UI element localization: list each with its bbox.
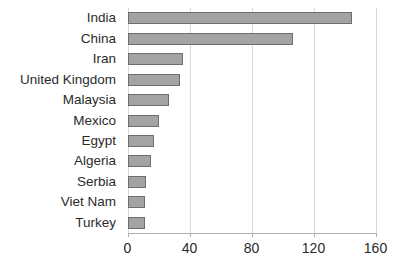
value-tick-label: 80 [244,240,260,256]
category-label: Viet Nam [0,195,116,209]
bar [128,94,170,106]
bar [128,176,147,188]
gridline [314,8,315,233]
tick-mark [376,233,377,237]
category-label: Egypt [0,134,116,148]
category-label: India [0,11,116,25]
bar [128,155,151,167]
bar [128,74,181,86]
tick-mark [190,233,191,237]
tick-mark [128,233,129,237]
bar [128,115,159,127]
value-tick-label: 120 [302,240,325,256]
value-axis-tick-labels: 04080120160 [0,240,401,262]
category-label: Malaysia [0,93,116,107]
category-label: China [0,32,116,46]
bar [128,217,145,229]
gridline [376,8,377,233]
tick-mark [314,233,315,237]
category-label: Turkey [0,216,116,230]
bar-chart: IndiaChinaIranUnited KingdomMalaysiaMexi… [0,0,401,277]
bar [128,196,145,208]
category-label: Mexico [0,114,116,128]
bar [128,135,154,147]
plot-area [128,8,376,233]
tick-mark [252,233,253,237]
value-tick-label: 160 [364,240,387,256]
value-tick-label: 40 [182,240,198,256]
value-tick-label: 0 [124,240,132,256]
category-label: United Kingdom [0,73,116,87]
category-label: Algeria [0,154,116,168]
bar [128,12,353,24]
category-axis-labels: IndiaChinaIranUnited KingdomMalaysiaMexi… [0,8,122,233]
bar [128,53,184,65]
category-label: Serbia [0,175,116,189]
bar [128,33,294,45]
category-label: Iran [0,52,116,66]
